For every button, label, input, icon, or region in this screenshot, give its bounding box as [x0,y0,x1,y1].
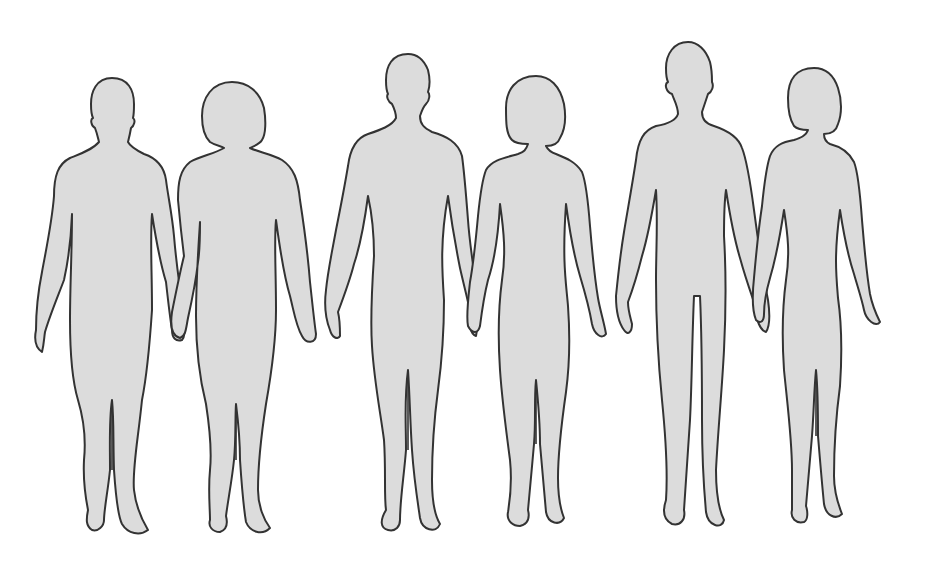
silhouettes-canvas [0,0,935,574]
figure-slim-female [753,68,880,522]
figure-slim-male [616,42,769,526]
pair-heavy [35,78,316,533]
pair-slim [616,42,880,526]
figure-heavy-male [35,78,184,533]
body-silhouettes-diagram: Six human silhouettes arranged as three … [0,0,935,574]
figure-average-male [325,54,478,530]
pair-average [325,54,606,530]
figure-average-female [467,76,606,526]
figure-heavy-female [171,82,316,532]
